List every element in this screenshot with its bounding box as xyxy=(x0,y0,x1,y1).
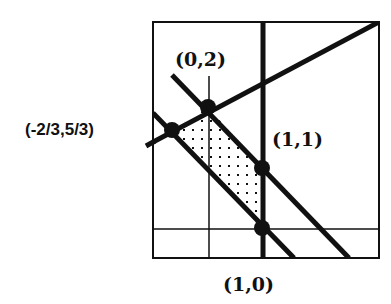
label-vertex-1-0: (1,0) xyxy=(223,275,274,294)
diagram-canvas xyxy=(0,0,391,304)
vertex-dot-1-0 xyxy=(254,220,270,236)
label-vertex-0-2: (0,2) xyxy=(175,50,226,69)
vertex-dot-1-1 xyxy=(254,160,270,176)
label-vertex-neg2over3-5over3: (-2/3,5/3) xyxy=(25,121,94,138)
label-vertex-1-1: (1,1) xyxy=(272,130,323,149)
vertex-dot-neg2over3-5over3 xyxy=(164,122,180,138)
vertex-dot-0-2 xyxy=(200,99,216,115)
rising-constraint-line xyxy=(153,22,379,142)
